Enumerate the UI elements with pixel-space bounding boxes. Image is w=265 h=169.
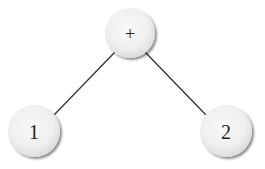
- tree-node-right: 2: [200, 105, 252, 157]
- tree-node-root: +: [105, 8, 155, 58]
- nodes-group: +12: [8, 8, 252, 157]
- edges-group: [54, 52, 206, 115]
- node-label: +: [125, 24, 135, 44]
- edge-root-left: [54, 52, 115, 115]
- node-label: 1: [29, 121, 39, 143]
- node-label: 2: [221, 121, 231, 143]
- edge-root-right: [145, 52, 206, 115]
- tree-node-left: 1: [8, 105, 60, 157]
- expression-tree-diagram: +12: [0, 0, 265, 169]
